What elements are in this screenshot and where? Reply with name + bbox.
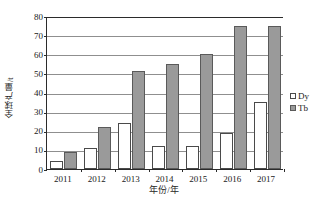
x-axis-tick-mark	[149, 169, 150, 172]
y-axis-tick-label: 0	[3, 166, 43, 175]
x-axis-tick-mark	[182, 169, 183, 172]
bar-group	[220, 17, 247, 169]
bar-dy-2011	[50, 161, 63, 169]
bar-group	[50, 17, 77, 169]
bar-chart: 全球产量/t 01020304050607080 201120122013201…	[0, 0, 328, 203]
legend-label: Tb	[298, 104, 308, 113]
bar-tb-2017	[268, 26, 281, 169]
y-axis-tick-mark	[44, 94, 47, 95]
y-axis-tick-mark	[44, 36, 47, 37]
bar-dy-2016	[220, 133, 233, 169]
legend-swatch-icon	[290, 93, 296, 99]
bar-group	[84, 17, 111, 169]
x-axis-title: 年份/年	[0, 186, 328, 195]
bar-dy-2012	[84, 148, 97, 169]
bar-dy-2015	[186, 146, 199, 169]
y-axis-tick-mark	[44, 74, 47, 75]
bar-dy-2017	[254, 102, 267, 169]
y-axis-tick-mark	[44, 170, 47, 171]
bar-dy-2014	[152, 146, 165, 169]
bar-group	[254, 17, 281, 169]
plot-area	[46, 17, 283, 170]
y-axis-tick-mark	[44, 17, 47, 18]
chart-legend: DyTb	[290, 90, 328, 114]
bar-tb-2011	[64, 152, 77, 169]
y-axis-tick-label: 10	[3, 146, 43, 155]
y-axis-tick-label: 80	[3, 13, 43, 22]
bar-dy-2013	[118, 123, 131, 169]
x-axis-tick-mark	[115, 169, 116, 172]
y-axis-tick-mark	[44, 113, 47, 114]
y-axis-tick-mark	[44, 132, 47, 133]
y-axis-tick-label: 20	[3, 127, 43, 136]
y-axis-tick-label: 40	[3, 89, 43, 98]
x-axis-tick-mark	[216, 169, 217, 172]
y-axis-tick-mark	[44, 55, 47, 56]
bar-tb-2012	[98, 127, 111, 169]
y-axis-tick-label: 50	[3, 70, 43, 79]
legend-item-tb: Tb	[290, 102, 328, 114]
bar-group	[118, 17, 145, 169]
y-axis-tick-label: 30	[3, 108, 43, 117]
bar-group	[186, 17, 213, 169]
y-axis-tick-label: 60	[3, 51, 43, 60]
bar-tb-2015	[200, 54, 213, 169]
bar-tb-2016	[234, 26, 247, 169]
bar-tb-2013	[132, 71, 145, 169]
bar-group	[152, 17, 179, 169]
x-axis-tick-label: 2017	[246, 175, 286, 184]
legend-label: Dy	[298, 92, 309, 101]
legend-swatch-icon	[290, 105, 296, 111]
bar-tb-2014	[166, 64, 179, 169]
legend-item-dy: Dy	[290, 90, 328, 102]
y-axis-tick-mark	[44, 151, 47, 152]
x-axis-tick-mark	[284, 169, 285, 172]
x-axis-tick-mark	[81, 169, 82, 172]
x-axis-tick-mark	[250, 169, 251, 172]
y-axis-tick-label: 70	[3, 32, 43, 41]
